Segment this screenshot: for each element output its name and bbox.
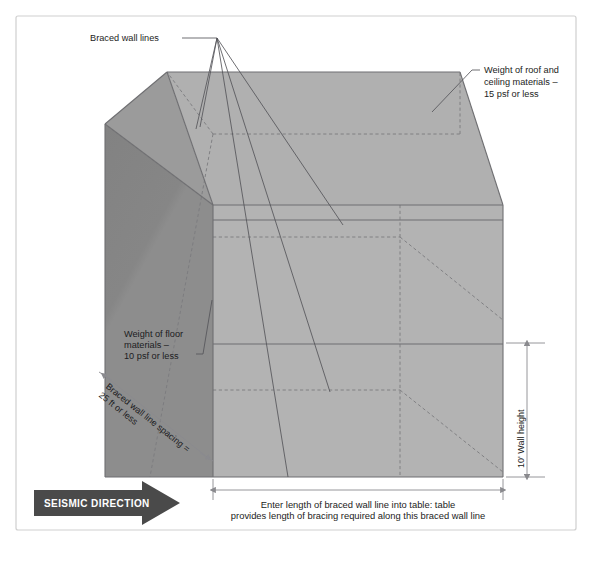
floor-weight-line2: materials – — [124, 340, 170, 350]
building-massing — [105, 72, 503, 477]
floor-weight-line3: 10 psf or less — [124, 351, 179, 361]
braced-wall-line-diagram: Braced wall lines Weight of roof and cei… — [0, 0, 600, 561]
wall-height-label-group: 10' Wall height — [516, 409, 526, 468]
figure-root: Braced wall lines Weight of roof and cei… — [0, 0, 600, 561]
roof-weight-line1: Weight of roof and — [484, 65, 559, 75]
length-caption-line1: Enter length of braced wall line into ta… — [261, 499, 455, 510]
length-caption-line2: provides length of bracing required alon… — [231, 510, 485, 521]
wall-height-label: 10' Wall height — [516, 409, 526, 468]
braced-wall-lines-label: Braced wall lines — [90, 33, 159, 43]
floor-weight-line1: Weight of floor — [124, 329, 183, 339]
seismic-direction-label: SEISMIC DIRECTION — [44, 498, 150, 509]
roof-weight-line2: ceiling materials – — [484, 77, 558, 87]
front-wall-face — [213, 205, 503, 477]
roof-front-slope-face — [167, 72, 503, 205]
roof-weight-line3: 15 psf or less — [484, 89, 539, 99]
